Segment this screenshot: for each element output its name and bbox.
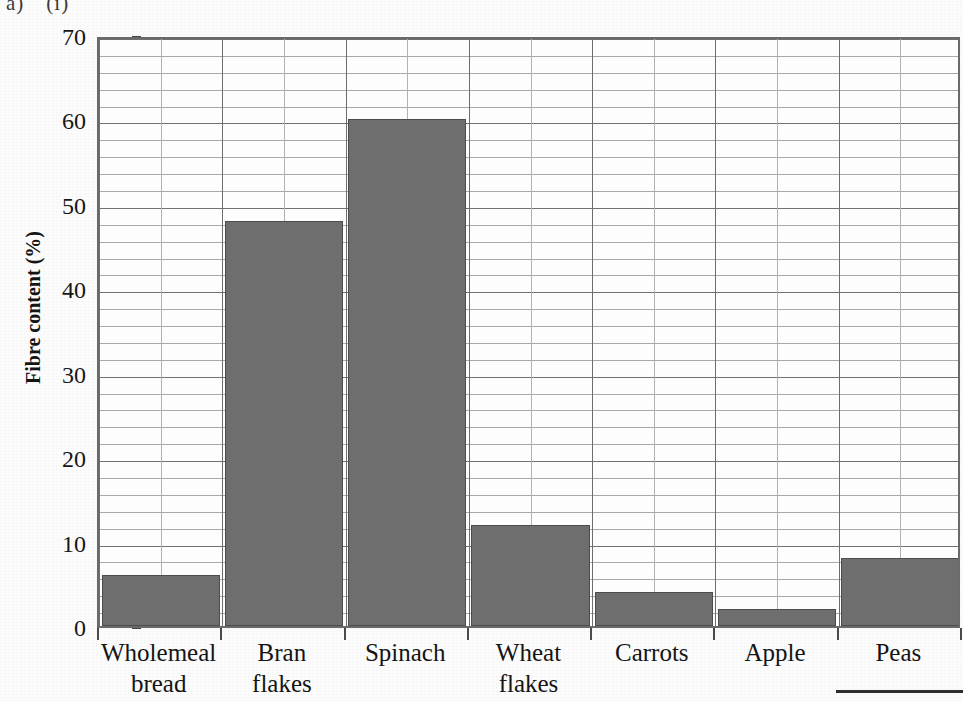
x-label-line-2: bread: [97, 668, 220, 699]
bar-bran-flakes: [225, 221, 343, 626]
y-tick-label-70: 70: [44, 25, 86, 49]
page-edge-artifact: [836, 690, 963, 693]
y-tick-label-30: 30: [44, 363, 86, 387]
x-label-line-1: Wholemeal: [101, 639, 216, 666]
x-label-line-1: Peas: [875, 639, 921, 666]
x-label-apple: Apple: [713, 637, 836, 668]
x-label-wholemeal-bread: Wholemealbread: [97, 637, 220, 699]
bar-wheat-flakes: [471, 525, 589, 626]
x-label-line-2: flakes: [220, 668, 343, 699]
x-label-peas: Peas: [837, 637, 960, 668]
y-tick-label-20: 20: [44, 447, 86, 471]
x-label-line-1: Wheat: [496, 639, 561, 666]
bar-wholemeal-bread: [102, 575, 220, 626]
x-axis-category-labels: WholemealbreadBranflakesSpinachWheatflak…: [97, 637, 960, 701]
x-label-carrots: Carrots: [590, 637, 713, 668]
y-tick-label-40: 40: [44, 278, 86, 302]
y-axis-tick-labels: 010203040506070: [44, 0, 86, 701]
x-label-line-2: flakes: [467, 668, 590, 699]
x-label-line-1: Spinach: [365, 639, 446, 666]
figure-label-part-a: a): [6, 0, 24, 15]
bar-series: [99, 39, 958, 626]
x-label-bran-flakes: Branflakes: [220, 637, 343, 699]
x-label-wheat-flakes: Wheatflakes: [467, 637, 590, 699]
bar-carrots: [595, 592, 713, 626]
plot-area: [97, 37, 960, 628]
x-label-line-1: Apple: [745, 639, 806, 666]
x-tick-mark-7: [960, 628, 962, 640]
bar-peas: [841, 558, 959, 626]
y-tick-label-10: 10: [44, 532, 86, 556]
y-axis-title: Fibre content (%): [22, 198, 45, 418]
x-label-spinach: Spinach: [344, 637, 467, 668]
x-label-line-1: Carrots: [615, 639, 689, 666]
bar-spinach: [348, 119, 466, 626]
bar-apple: [718, 609, 836, 626]
y-tick-label-60: 60: [44, 109, 86, 133]
y-tick-label-50: 50: [44, 194, 86, 218]
x-label-line-1: Bran: [258, 639, 307, 666]
chart-page: a)(i) Fibre content (%) 010203040506070 …: [0, 0, 963, 701]
